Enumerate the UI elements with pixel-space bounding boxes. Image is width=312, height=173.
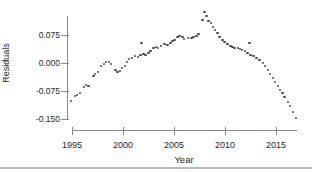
data-point xyxy=(292,111,294,113)
data-point xyxy=(173,39,175,41)
data-point xyxy=(233,47,235,49)
data-point xyxy=(178,35,180,37)
data-point xyxy=(289,105,291,107)
y-axis-tick xyxy=(61,91,69,92)
data-point xyxy=(121,67,123,69)
data-point xyxy=(212,26,214,28)
x-axis-line xyxy=(72,130,297,131)
bottom-divider xyxy=(0,167,312,169)
data-point xyxy=(272,77,274,79)
data-point xyxy=(277,85,279,87)
data-point xyxy=(94,73,96,75)
data-point xyxy=(203,11,205,13)
y-tick-label: -0.150 xyxy=(26,115,60,124)
data-point xyxy=(269,73,271,75)
data-point xyxy=(195,35,197,37)
data-point xyxy=(246,52,248,54)
data-point xyxy=(248,42,250,44)
data-point xyxy=(252,55,254,57)
data-point xyxy=(110,63,112,65)
data-point xyxy=(160,45,162,47)
data-point xyxy=(163,43,165,45)
data-point xyxy=(131,57,133,59)
data-point xyxy=(258,59,260,61)
data-point xyxy=(76,94,78,96)
data-point xyxy=(205,15,207,17)
data-point xyxy=(283,96,285,98)
data-point xyxy=(262,62,264,64)
data-point xyxy=(147,52,149,54)
data-point xyxy=(87,85,89,87)
data-point xyxy=(140,42,142,44)
data-point xyxy=(223,41,225,43)
data-point xyxy=(210,22,212,24)
x-tick-label: 2000 xyxy=(108,140,138,150)
data-point xyxy=(287,101,289,103)
data-point xyxy=(137,56,139,58)
data-point xyxy=(126,61,128,63)
data-point xyxy=(274,81,276,83)
y-axis-tick xyxy=(61,63,69,64)
x-axis-tick xyxy=(72,127,73,135)
data-point xyxy=(124,65,126,67)
data-point xyxy=(295,117,297,119)
data-point xyxy=(218,36,220,38)
x-axis-tick xyxy=(123,127,124,135)
data-point xyxy=(216,32,218,34)
y-axis-title: Residuals xyxy=(1,33,11,93)
data-point xyxy=(79,92,81,94)
x-tick-label: 1995 xyxy=(57,140,87,150)
data-point xyxy=(201,19,203,21)
data-point xyxy=(119,70,121,72)
data-point xyxy=(279,89,281,91)
y-axis-tick xyxy=(61,119,69,120)
data-point xyxy=(103,63,105,65)
y-axis-tick xyxy=(61,35,69,36)
data-point xyxy=(92,75,94,77)
data-point xyxy=(214,29,216,31)
y-axis-line xyxy=(67,16,68,120)
data-point xyxy=(70,100,72,102)
data-point xyxy=(187,37,189,39)
x-tick-label: 2010 xyxy=(210,140,240,150)
data-point xyxy=(157,47,159,49)
data-point xyxy=(226,43,228,45)
x-axis-tick xyxy=(276,127,277,135)
data-point xyxy=(241,49,243,51)
data-point xyxy=(128,58,130,60)
data-point xyxy=(100,65,102,67)
data-point xyxy=(83,86,85,88)
data-point xyxy=(267,69,269,71)
data-point xyxy=(139,54,141,56)
data-point xyxy=(281,92,283,94)
data-point xyxy=(197,33,199,35)
x-tick-label: 2015 xyxy=(261,140,291,150)
data-point xyxy=(144,54,146,56)
y-tick-label: 0.075 xyxy=(26,31,60,40)
data-point xyxy=(134,55,136,57)
data-point xyxy=(249,54,251,56)
data-point xyxy=(105,61,107,63)
y-tick-label: 0.000 xyxy=(26,59,60,68)
x-axis-tick xyxy=(174,127,175,135)
data-point xyxy=(255,57,257,59)
x-tick-label: 2005 xyxy=(159,140,189,150)
data-point xyxy=(166,44,168,46)
x-axis-tick xyxy=(225,127,226,135)
y-tick-label: -0.075 xyxy=(26,87,60,96)
data-point xyxy=(97,71,99,73)
x-axis-title: Year xyxy=(154,154,214,165)
data-point xyxy=(183,38,185,40)
data-point xyxy=(149,50,151,52)
residuals-scatter-chart: Residuals 0.0750.000-0.075-0.15019952000… xyxy=(0,0,312,173)
data-point xyxy=(192,36,194,38)
data-point xyxy=(264,65,266,67)
